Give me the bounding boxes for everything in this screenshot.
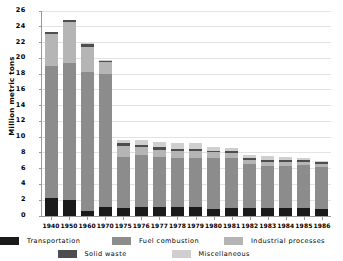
legend-row-1: Transportation Fuel combustion Industria… (0, 235, 343, 247)
x-tick-label: 1960 (78, 222, 96, 229)
x-tick-label: 1984 (277, 222, 295, 229)
bar-segment (189, 207, 202, 216)
bar-stack[interactable] (297, 158, 310, 216)
bar-stack[interactable] (171, 143, 184, 216)
legend-row-2: Solid waste Miscellaneous (0, 248, 343, 260)
bar-segment (117, 146, 130, 157)
x-tick-mark (322, 216, 323, 220)
y-tick-mark (39, 74, 42, 75)
x-tick-label: 1979 (187, 222, 205, 229)
chart-container: by source, 1940-1986 Million metric tons… (0, 0, 343, 261)
y-tick-mark (39, 184, 42, 185)
x-tick-label: 1980 (205, 222, 223, 229)
legend-item-miscellaneous: Miscellaneous (172, 248, 286, 260)
bar-stack[interactable] (243, 155, 256, 216)
x-tick-mark (250, 216, 251, 220)
bar-stack[interactable] (45, 32, 58, 216)
bar-segment (207, 158, 220, 208)
legend-swatch-fuel-combustion (112, 237, 131, 245)
y-tick-label: 16 (0, 86, 26, 93)
y-tick-label: 20 (0, 54, 26, 61)
x-tick-mark (159, 216, 160, 220)
bar-stack[interactable] (99, 60, 112, 216)
bar-segment (189, 158, 202, 208)
bar-segment (63, 200, 76, 216)
bar-segment (261, 208, 274, 216)
bar-segment (153, 207, 166, 216)
bar-stack[interactable] (189, 143, 202, 216)
bar-segment (261, 166, 274, 209)
bar-stack[interactable] (117, 140, 130, 216)
x-tick-mark (123, 216, 124, 220)
bar-segment (297, 208, 310, 216)
bar-stack[interactable] (135, 140, 148, 216)
x-tick-label: 1983 (259, 222, 277, 229)
y-tick-label: 8 (0, 149, 26, 156)
y-gridline (42, 11, 331, 12)
bar-segment (315, 209, 328, 216)
bar-segment (81, 47, 94, 72)
x-tick-mark (69, 216, 70, 220)
y-tick-label: 2 (0, 196, 26, 203)
legend-swatch-solid-waste (58, 250, 77, 258)
bar-stack[interactable] (261, 156, 274, 216)
bar-segment (99, 62, 112, 74)
bar-segment (243, 164, 256, 208)
legend-swatch-industrial-processes (224, 237, 243, 245)
x-tick-mark (232, 216, 233, 220)
x-tick-mark (105, 216, 106, 220)
bar-segment (225, 208, 238, 216)
x-tick-mark (286, 216, 287, 220)
x-tick-label: 1978 (168, 222, 186, 229)
y-tick-mark (39, 200, 42, 201)
bar-segment (45, 34, 58, 66)
bar-stack[interactable] (279, 157, 292, 216)
legend-swatch-miscellaneous (172, 250, 191, 258)
bar-segment (171, 158, 184, 208)
bar-stack[interactable] (81, 43, 94, 216)
legend-label-transportation: Transportation (27, 237, 80, 245)
y-tick-label: 10 (0, 133, 26, 140)
x-tick-mark (196, 216, 197, 220)
bar-segment (279, 166, 292, 209)
x-tick-mark (214, 216, 215, 220)
legend-label-miscellaneous: Miscellaneous (199, 250, 250, 258)
y-tick-mark (39, 11, 42, 12)
y-gridline (42, 26, 331, 27)
bar-segment (207, 209, 220, 216)
bar-segment (315, 167, 328, 209)
bar-stack[interactable] (225, 148, 238, 216)
x-tick-mark (141, 216, 142, 220)
bar-segment (117, 208, 130, 216)
x-tick-mark (87, 216, 88, 220)
y-tick-label: 12 (0, 117, 26, 124)
bar-segment (63, 63, 76, 200)
x-tick-mark (268, 216, 269, 220)
x-tick-label: 1986 (313, 222, 331, 229)
bar-segment (135, 155, 148, 207)
bar-segment (135, 207, 148, 216)
bar-segment (135, 147, 148, 155)
y-tick-mark (39, 42, 42, 43)
legend-item-industrial-processes: Industrial processes (224, 235, 343, 247)
x-tick-label: 1975 (114, 222, 132, 229)
x-tick-label: 1970 (96, 222, 114, 229)
x-tick-label: 1950 (60, 222, 78, 229)
y-tick-mark (39, 26, 42, 27)
bar-segment (99, 74, 112, 207)
x-tick-mark (51, 216, 52, 220)
bar-segment (45, 198, 58, 216)
y-tick-mark (39, 168, 42, 169)
bar-stack[interactable] (315, 161, 328, 216)
bar-stack[interactable] (207, 147, 220, 216)
y-tick-label: 18 (0, 70, 26, 77)
x-tick-mark (304, 216, 305, 220)
bar-segment (297, 165, 310, 208)
y-tick-label: 0 (0, 212, 26, 219)
bar-stack[interactable] (153, 142, 166, 216)
x-tick-label: 1940 (42, 222, 60, 229)
x-tick-mark (177, 216, 178, 220)
x-tick-label: 1982 (241, 222, 259, 229)
bar-stack[interactable] (63, 20, 76, 216)
legend-label-industrial-processes: Industrial processes (251, 237, 325, 245)
